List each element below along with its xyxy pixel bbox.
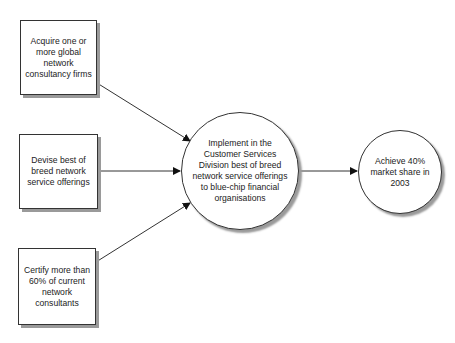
node-devise-offerings[interactable]: Devise best of breed network service off… xyxy=(19,134,98,209)
node-implement-offerings[interactable]: Implement in the Customer Services Divis… xyxy=(181,112,299,230)
node-certify-consultants[interactable]: Certify more than 60% of current network… xyxy=(18,248,96,325)
node-label: Achieve 40% market share in 2003 xyxy=(359,156,441,189)
node-label: Devise best of breed network service off… xyxy=(20,155,97,188)
node-market-share-goal[interactable]: Achieve 40% market share in 2003 xyxy=(358,130,442,214)
node-label: Implement in the Customer Services Divis… xyxy=(182,138,298,204)
node-label: Certify more than 60% of current network… xyxy=(19,265,95,309)
edge-n1-n4 xyxy=(97,83,190,141)
node-acquire-firms[interactable]: Acquire one or more global network consu… xyxy=(20,20,97,95)
node-label: Acquire one or more global network consu… xyxy=(21,36,96,80)
edge-n3-n4 xyxy=(96,203,190,262)
